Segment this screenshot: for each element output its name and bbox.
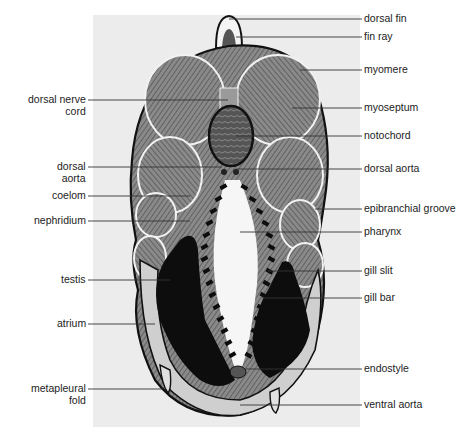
label-nephridium: nephridium — [34, 214, 86, 226]
label-dorsal-nerve-cord: dorsal nerve cord — [28, 93, 86, 117]
label-atrium: atrium — [57, 317, 86, 329]
label-fin-ray: fin ray — [364, 30, 393, 42]
label-dorsal-fin: dorsal fin — [364, 12, 407, 24]
label-endostyle: endostyle — [364, 362, 409, 374]
label-pharynx: pharynx — [364, 225, 401, 237]
label-ventral-aorta: ventral aorta — [364, 398, 422, 410]
label-gill-bar: gill bar — [364, 291, 395, 303]
label-dorsal-aorta-left: dorsal aorta — [57, 160, 86, 184]
label-notochord: notochord — [364, 129, 411, 141]
label-metapleural-fold: metapleural fold — [31, 382, 86, 406]
endostyle-shape — [230, 366, 246, 378]
label-dorsal-aorta-right: dorsal aorta — [364, 162, 419, 174]
label-epibranchial-groove: epibranchial groove — [364, 202, 456, 214]
amphioxus-cross-section-figure: dorsal nerve corddorsal aortacoelomnephr… — [0, 0, 466, 440]
label-myomere: myomere — [364, 63, 408, 75]
label-coelom: coelom — [52, 189, 86, 201]
label-gill-slit: gill slit — [364, 264, 393, 276]
label-testis: testis — [61, 273, 86, 285]
label-myoseptum: myoseptum — [364, 101, 418, 113]
